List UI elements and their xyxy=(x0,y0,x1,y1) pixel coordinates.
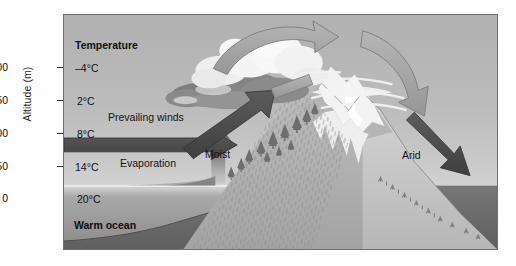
label-evaporation: Evaporation xyxy=(120,157,176,169)
temperature-value: –4°C xyxy=(75,62,98,74)
figure-canvas: Altitude (m) 3000 2250 1500 750 0 xyxy=(0,0,516,266)
temperature-value: 20°C xyxy=(77,193,100,205)
label-warm-ocean: Warm ocean xyxy=(74,219,136,231)
label-moist: Moist xyxy=(205,148,230,160)
y-tick-label: 0 xyxy=(0,192,8,204)
y-tick-label: 3000 xyxy=(0,61,8,73)
temperature-heading: Temperature xyxy=(75,39,138,51)
y-tick-label: 1500 xyxy=(0,127,8,139)
label-prevailing-winds: Prevailing winds xyxy=(108,111,184,123)
y-tick-label: 2250 xyxy=(0,94,8,106)
y-axis-title: Altitude (m) xyxy=(21,39,33,149)
temperature-value: 8°C xyxy=(77,128,95,140)
temperature-value: 2°C xyxy=(77,95,95,107)
y-tick-label: 750 xyxy=(0,160,8,172)
label-arid: Arid xyxy=(402,149,421,161)
diagram-frame: Temperature –4°C 2°C 8°C 14°C 20°C Preva… xyxy=(63,14,498,250)
temperature-value: 14°C xyxy=(75,161,98,173)
